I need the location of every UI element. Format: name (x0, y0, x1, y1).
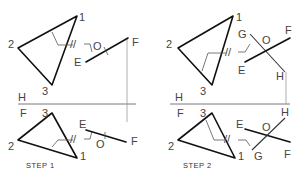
label-e: E (236, 118, 243, 130)
label-o: O (262, 34, 271, 46)
label-f: F (132, 36, 139, 48)
step-1: H F 1 2 3 // E F O 3 2 1 // E F O STEP 1 (8, 11, 139, 170)
parallel-mark: // (70, 38, 77, 50)
label-f: F (131, 135, 138, 147)
parallel-mark: // (224, 133, 231, 145)
construction-line (202, 53, 226, 71)
label-e: E (238, 64, 245, 76)
vertex-3-label: 3 (200, 85, 206, 97)
ref-label-h: H (18, 91, 26, 103)
label-o: O (262, 121, 271, 133)
vertex-3-label: 3 (42, 107, 48, 119)
label-e: E (79, 118, 86, 130)
vertex-3-label: 3 (200, 107, 206, 119)
step-2: H F 1 2 3 // G O F E H 3 2 1 // E O H G … (166, 11, 292, 170)
triangle-front-view (18, 113, 77, 158)
vertex-2-label: 2 (8, 140, 14, 152)
step-caption: STEP 2 (183, 161, 212, 170)
vertex-2-label: 2 (8, 38, 14, 50)
label-g: G (254, 150, 263, 162)
vertex-1-label: 1 (80, 150, 86, 162)
label-o: O (93, 40, 102, 52)
step-caption: STEP 1 (26, 161, 55, 170)
vertex-1-label: 1 (79, 11, 85, 23)
label-f: F (284, 148, 291, 160)
label-f: F (285, 24, 292, 36)
vertex-1-label: 1 (236, 11, 242, 23)
label-h: H (281, 106, 289, 118)
leader-line (238, 44, 250, 52)
parallel-mark: // (225, 46, 232, 58)
label-g: G (238, 28, 247, 40)
vertex-3-label: 3 (42, 85, 48, 97)
label-o: O (96, 138, 105, 150)
leader-line (84, 44, 92, 52)
vertex-2-label: 2 (166, 38, 172, 50)
ref-label-f: F (20, 107, 27, 119)
label-e: E (74, 56, 81, 68)
label-h: H (276, 70, 284, 82)
diagram-canvas: H F 1 2 3 // E F O 3 2 1 // E F O STEP 1 (0, 0, 305, 175)
vertex-2-label: 2 (168, 140, 174, 152)
ref-label-f: F (177, 107, 184, 119)
ref-label-h: H (175, 91, 183, 103)
leader-line (238, 140, 250, 146)
line-ef-front (86, 130, 126, 142)
construction-line (206, 120, 226, 140)
parallel-mark: // (70, 133, 77, 145)
triangle-top-view (18, 16, 77, 85)
vertex-1-label: 1 (238, 150, 244, 162)
